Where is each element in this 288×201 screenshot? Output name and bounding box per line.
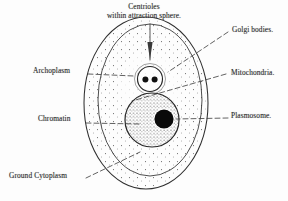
- centriole-right: [152, 77, 158, 83]
- attraction-sphere-outline: [138, 67, 163, 92]
- label-ground-cytoplasm: Ground Cytoplasm: [9, 172, 67, 181]
- label-centrioles: Centrioles within attraction sphere.: [84, 3, 204, 20]
- centriole-left: [142, 77, 148, 83]
- label-mitochondria: Mitochondria.: [231, 69, 274, 78]
- label-centrioles-line2: within attraction sphere.: [107, 11, 181, 20]
- label-plasmosome: Plasmosome.: [231, 112, 271, 121]
- label-golgi-bodies: Golgi bodies.: [232, 26, 273, 35]
- cell-diagram-figure: Centrioles within attraction sphere. Gol…: [0, 0, 288, 201]
- plasmosome-body: [154, 109, 173, 128]
- label-chromatin: Chromatin: [38, 115, 71, 124]
- label-archoplasm: Archoplasm: [33, 67, 70, 76]
